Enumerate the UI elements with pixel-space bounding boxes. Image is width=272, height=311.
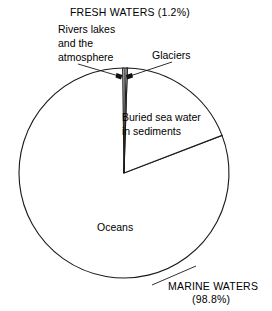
- label-fresh-waters: FRESH WATERS (1.2%): [70, 6, 190, 18]
- label-buried-line2: in sediments: [122, 125, 181, 137]
- label-rivers-line3: atmosphere: [58, 51, 114, 63]
- label-glaciers: Glaciers: [152, 49, 191, 61]
- pie-chart-svg: FRESH WATERS (1.2%) Rivers lakes and the…: [0, 0, 272, 311]
- label-marine-waters-line1: MARINE WATERS: [168, 280, 258, 292]
- label-oceans: Oceans: [97, 221, 133, 233]
- label-rivers-line2: and the: [58, 37, 93, 49]
- label-buried-line1: Buried sea water: [122, 111, 201, 123]
- pie-chart-figure: FRESH WATERS (1.2%) Rivers lakes and the…: [0, 0, 272, 311]
- label-marine-waters-line2: (98.8%): [192, 293, 230, 305]
- label-rivers-line1: Rivers lakes: [58, 23, 115, 35]
